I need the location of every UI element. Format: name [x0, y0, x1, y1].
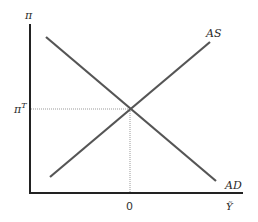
pi-target-label: πT — [13, 101, 27, 116]
pi-target-sup: T — [21, 101, 27, 110]
y-axis-label: π — [24, 9, 33, 22]
as-label: AS — [205, 27, 222, 40]
ad-label: AD — [224, 179, 242, 192]
zero-label: 0 — [126, 200, 133, 213]
x-axis-label: Ỹ — [226, 201, 234, 212]
as-ad-diagram: π πT 0 Ỹ AS AD — [0, 0, 258, 222]
